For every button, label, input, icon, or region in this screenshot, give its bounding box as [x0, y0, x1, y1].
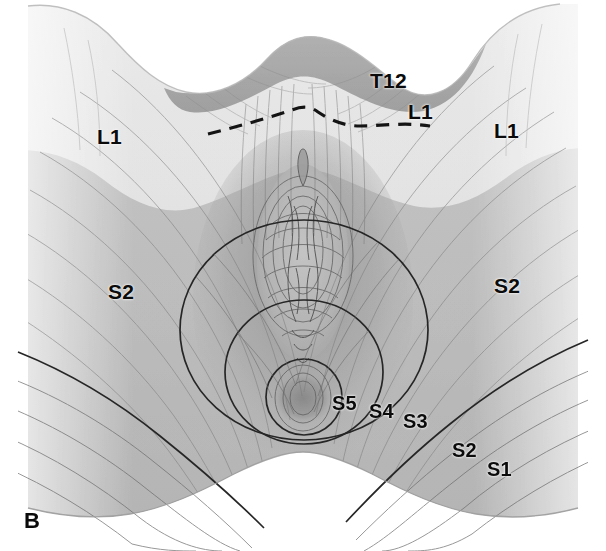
dermatome-label-s4: S4 — [369, 401, 394, 421]
dermatome-label-s2-right: S2 — [494, 275, 520, 296]
dermatome-figure: T12 L1 L1 L1 S2 S2 S5 S4 S3 S2 S1 B — [0, 0, 606, 551]
dermatome-label-s2-lower: S2 — [452, 440, 477, 460]
dermatome-label-l1-left: L1 — [97, 126, 122, 147]
panel-label: B — [24, 510, 40, 532]
dermatome-label-t12: T12 — [370, 70, 407, 91]
dermatome-label-s3: S3 — [403, 411, 428, 431]
dermatome-label-l1-right: L1 — [494, 120, 519, 141]
dermatome-label-s1: S1 — [487, 459, 512, 479]
dermatome-label-l1-center: L1 — [408, 101, 433, 122]
dermatome-label-s2-left: S2 — [108, 281, 134, 302]
dermatome-label-s5: S5 — [332, 393, 357, 413]
